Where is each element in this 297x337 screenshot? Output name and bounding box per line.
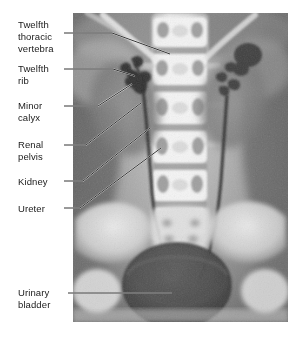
label-twelfth-rib: Twelfth rib bbox=[18, 63, 49, 87]
urinary-system-radiograph bbox=[73, 13, 288, 322]
labeled-radiograph-figure: Twelfth thoracic vertebra Twelfth rib Mi… bbox=[0, 0, 297, 337]
label-twelfth-thoracic-vertebra: Twelfth thoracic vertebra bbox=[18, 19, 54, 55]
label-urinary-bladder: Urinary bladder bbox=[18, 287, 50, 311]
label-kidney: Kidney bbox=[18, 176, 48, 188]
radiograph-image bbox=[73, 13, 288, 322]
label-renal-pelvis: Renal pelvis bbox=[18, 139, 43, 163]
label-ureter: Ureter bbox=[18, 203, 45, 215]
label-minor-calyx: Minor calyx bbox=[18, 100, 42, 124]
